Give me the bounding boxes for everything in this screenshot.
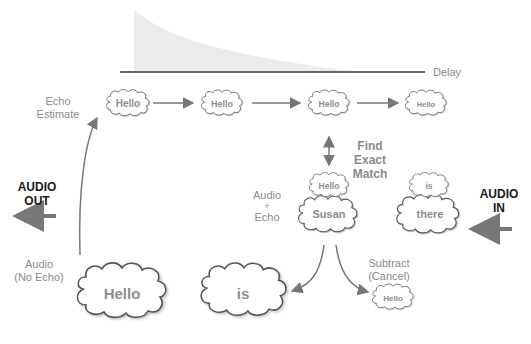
echo-decay-curve (134, 10, 350, 71)
find-exact-match-label: Find Exact Match (350, 139, 390, 181)
echo-cancellation-diagram: Hello Hello Hello Hello Susan Hello ther… (0, 0, 531, 344)
exact-line: Exact (350, 153, 390, 167)
match-line: Match (350, 167, 390, 181)
svg-text:Susan: Susan (312, 208, 345, 220)
input-cloud-hello: Hello (309, 173, 348, 197)
svg-text:Hello: Hello (417, 100, 436, 109)
audio-in-line1: AUDIO (474, 187, 524, 201)
cancel-line: (Cancel) (364, 270, 414, 283)
svg-text:Hello: Hello (383, 294, 403, 303)
subtract-cancel-label: Subtract (Cancel) (364, 257, 414, 283)
echo-estimate-cloud-4: Hello (405, 90, 446, 115)
echo-line: Echo (246, 211, 288, 224)
subtract-line: Subtract (364, 257, 414, 270)
audio-in-label: AUDIO IN (474, 187, 524, 215)
input-cloud-is: is (409, 173, 448, 197)
audio-out-label: AUDIO OUT (12, 180, 62, 208)
echo-estimate-line2: Estimate (30, 108, 86, 121)
input-cloud-susan: Susan (299, 196, 357, 232)
echo-estimate-cloud-3: Hello (308, 90, 349, 115)
audio-out-line1: AUDIO (12, 180, 62, 194)
input-cloud-there: there (397, 195, 459, 233)
echo-estimate-cloud-2: Hello (201, 90, 242, 115)
echo-estimate-line1: Echo (30, 95, 86, 108)
output-cloud-hello-no-echo: Hello (77, 263, 165, 318)
svg-text:there: there (417, 208, 444, 220)
audio-no-echo-line2: (No Echo) (6, 271, 72, 284)
audio-out-line2: OUT (12, 194, 62, 208)
svg-text:Hello: Hello (116, 98, 140, 109)
find-line: Find (350, 139, 390, 153)
svg-text:Hello: Hello (319, 99, 340, 109)
output-cloud-is: is (201, 263, 286, 315)
plus-line: + (246, 202, 288, 211)
audio-no-echo-line1: Audio (6, 258, 72, 271)
svg-text:Hello: Hello (319, 181, 340, 191)
svg-text:is: is (425, 181, 432, 191)
audio-plus-echo-label: Audio + Echo (246, 189, 288, 224)
svg-text:is: is (237, 285, 250, 302)
echo-estimate-label: Echo Estimate (30, 95, 86, 121)
svg-text:Hello: Hello (211, 99, 234, 109)
audio-in-line2: IN (474, 201, 524, 215)
echo-estimate-cloud-1: Hello (107, 89, 149, 115)
feedback-arrow (80, 118, 97, 255)
delay-label: Delay (433, 66, 461, 79)
cancelled-cloud-hello: Hello (372, 284, 413, 309)
output-arrow-is (292, 245, 324, 291)
svg-text:Hello: Hello (104, 285, 141, 302)
audio-no-echo-label: Audio (No Echo) (6, 258, 72, 284)
